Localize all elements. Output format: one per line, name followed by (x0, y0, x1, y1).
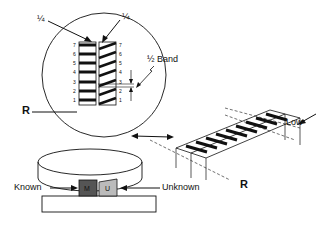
quarter-label-right: ¼ (122, 12, 130, 21)
scale-left-6: 6 (73, 52, 76, 57)
unknown-block-label: U (105, 184, 110, 193)
scale-left-4: 4 (73, 70, 76, 75)
scale-right-1: 1 (119, 98, 122, 103)
scale-right-2: 2 (119, 89, 122, 94)
scale-left-1: 1 (73, 98, 76, 103)
scale-right-7: 7 (119, 43, 122, 48)
half-band-label: ½ Band (147, 55, 178, 64)
unknown-label: Unknown (162, 183, 200, 192)
scale-left-2: 2 (73, 89, 76, 94)
optical-flat (38, 149, 142, 175)
reference-label-top: R (22, 106, 30, 115)
known-block-label: M (84, 184, 90, 193)
scale-left-3: 3 (73, 80, 76, 85)
known-label: Known (14, 183, 42, 192)
optical-flat-diagram (0, 0, 324, 232)
scale-right-5: 5 (119, 61, 122, 66)
quarter-label-left: ¼ (37, 14, 45, 23)
scale-right-6: 6 (119, 52, 122, 57)
reference-label-bottom: R (240, 180, 248, 189)
low-label: Low (286, 118, 303, 127)
scale-right-3: 3 (119, 80, 122, 85)
scale-right-4: 4 (119, 70, 122, 75)
scale-left-7: 7 (73, 43, 76, 48)
scale-left-5: 5 (73, 61, 76, 66)
base-plate (42, 196, 156, 212)
